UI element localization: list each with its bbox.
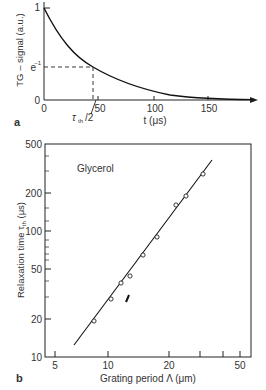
a-xtick-50: 50 (94, 103, 106, 114)
b-xtick-50: 50 (234, 360, 246, 371)
b-xtick-20: 20 (163, 360, 175, 371)
a-tau-rest: /2 (85, 112, 94, 123)
b-frame (45, 144, 251, 357)
a-ytick-e-sup: −1 (34, 60, 42, 66)
data-point (201, 172, 205, 176)
a-ylabel: TG – signal (a.u.) (14, 13, 25, 86)
a-ytick-1: 1 (34, 2, 40, 13)
data-point (109, 297, 113, 301)
data-point (141, 253, 145, 257)
a-xtick-100: 100 (147, 103, 164, 114)
b-legend-glycerol: Glycerol (77, 163, 114, 174)
b-ytick-200: 200 (25, 188, 42, 199)
panel-label-b: b (16, 372, 23, 384)
b-ytick-100: 100 (25, 226, 42, 237)
b-slope-mark (126, 295, 129, 302)
b-ylabel: Relaxation time τth (μs) (15, 202, 27, 298)
data-point (174, 203, 178, 207)
panel-label-a: a (14, 116, 21, 128)
b-xtick-10: 10 (102, 360, 114, 371)
data-point (184, 194, 188, 198)
b-ytick-20: 20 (31, 314, 43, 325)
b-data-points (92, 172, 205, 323)
data-point (92, 319, 96, 323)
b-ytick-50: 50 (31, 264, 43, 275)
data-point (155, 235, 159, 239)
a-xlabel: t (μs) (144, 115, 167, 126)
chart-a: 1 e −1 0 0 50 100 150 τ th /2 t (μs) TG … (14, 2, 258, 128)
b-ytick-500: 500 (25, 139, 42, 150)
b-xlabel: Grating period Λ (μm) (100, 373, 196, 384)
data-point (119, 281, 123, 285)
a-ytick-0: 0 (34, 95, 40, 106)
data-point (128, 274, 132, 278)
chart-b: Glycerol 500 200 100 50 20 10 5 10 20 50… (15, 139, 251, 384)
a-tau-label: τ (72, 112, 77, 123)
b-ytick-10: 10 (31, 352, 43, 363)
a-decay-curve (44, 8, 254, 100)
a-xtick-150: 150 (201, 103, 218, 114)
a-tau-sub: th (78, 118, 83, 124)
b-xtick-5: 5 (52, 360, 58, 371)
figure: 1 e −1 0 0 50 100 150 τ th /2 t (μs) TG … (0, 0, 266, 390)
a-xtick-0: 0 (41, 103, 47, 114)
